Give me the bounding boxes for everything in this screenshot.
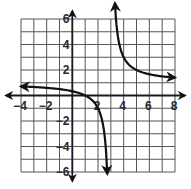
x-tick-label: 8 <box>171 99 178 113</box>
x-tick-label: −4 <box>13 99 27 113</box>
x-tick-label: 4 <box>119 99 126 113</box>
axes <box>6 11 185 181</box>
y-tick-label: 6 <box>63 12 70 26</box>
y-tick-label: −4 <box>56 140 70 154</box>
y-tick-label: −6 <box>56 165 70 179</box>
y-tick-label: −2 <box>56 114 70 128</box>
x-tick-label: −2 <box>39 99 53 113</box>
y-tick-label: 4 <box>63 38 70 52</box>
x-tick-label: 6 <box>145 99 152 113</box>
y-tick-label: 2 <box>63 63 70 77</box>
rational-function-graph: −4−22468642−2−4−6 <box>0 0 191 189</box>
